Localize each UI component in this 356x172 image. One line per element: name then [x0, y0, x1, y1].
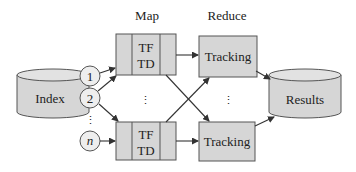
arrow-split2-mapper2 — [99, 104, 118, 121]
split-1-label: 1 — [87, 69, 94, 84]
arrow-mapper1-reducer2 — [166, 75, 209, 121]
mapper-ellipsis: ⋮ — [140, 94, 151, 106]
map-header: Map — [135, 8, 159, 23]
mapreduce-diagram: Map Reduce Index Results 1 2 ⋮ n TF TD T… — [0, 0, 356, 172]
arrow-mapper2-reducer1 — [166, 78, 209, 122]
arrow-reducer2-results — [255, 117, 274, 126]
results-label: Results — [286, 92, 324, 107]
reducer-top-label: Tracking — [205, 49, 252, 64]
reducer-ellipsis: ⋮ — [223, 94, 234, 106]
arrow-reducer1-results — [256, 71, 270, 79]
mapper-bottom-td: TD — [137, 143, 154, 158]
reducer-bottom-label: Tracking — [204, 134, 251, 149]
mapper-top-td: TD — [137, 56, 154, 71]
split-ellipsis: ⋮ — [85, 114, 96, 126]
reduce-header: Reduce — [208, 8, 247, 23]
arrow-split2-mapper1 — [98, 76, 116, 91]
split-n-label: n — [87, 133, 94, 148]
split-2-label: 2 — [87, 91, 94, 106]
mapper-top-tf: TF — [138, 40, 153, 55]
index-label: Index — [35, 91, 65, 106]
arrow-split1-mapper1 — [100, 68, 115, 73]
mapper-bottom-tf: TF — [138, 127, 153, 142]
